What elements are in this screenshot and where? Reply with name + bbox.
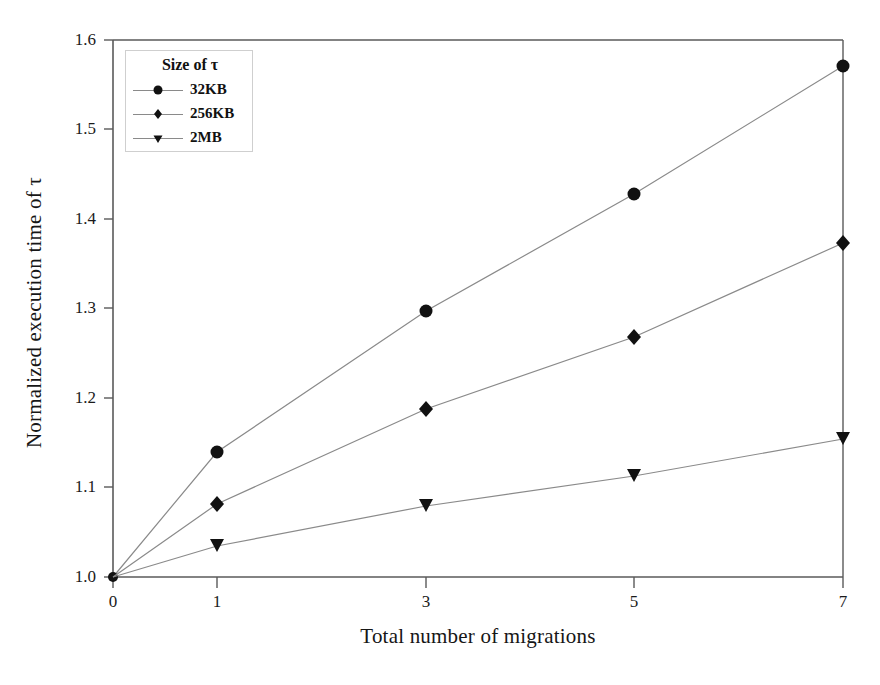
y-tick-label-1.0: 1.0 (52, 567, 96, 587)
y-tick-label-1.1: 1.1 (52, 477, 96, 497)
y-tick-label-1.5: 1.5 (52, 119, 96, 139)
triangle-down-marker-icon (152, 132, 164, 144)
x-axis-ticks (113, 577, 843, 588)
circle-marker-icon (152, 84, 164, 96)
legend: Size of τ 32KB 256KB 2MB (125, 50, 253, 152)
y-tick-label-1.6: 1.6 (52, 30, 96, 50)
x-tick-label-3: 3 (411, 592, 441, 612)
legend-item-2mb[interactable]: 2MB (126, 127, 254, 151)
x-tick-label-1: 1 (202, 592, 232, 612)
legend-title: Size of τ (126, 56, 254, 74)
legend-label-256kb: 256KB (190, 105, 234, 122)
y-tick-label-1.4: 1.4 (52, 209, 96, 229)
legend-item-256kb[interactable]: 256KB (126, 103, 254, 127)
series-256kb (113, 235, 850, 577)
y-axis-ticks (104, 40, 113, 577)
x-tick-label-7: 7 (828, 592, 858, 612)
diamond-marker-icon (152, 108, 164, 120)
legend-item-32kb[interactable]: 32KB (126, 79, 254, 103)
x-tick-label-5: 5 (619, 592, 649, 612)
y-tick-label-1.3: 1.3 (52, 298, 96, 318)
legend-label-2mb: 2MB (190, 129, 222, 146)
x-tick-label-0: 0 (98, 592, 128, 612)
legend-label-32kb: 32KB (190, 81, 227, 98)
chart-figure: Normalized execution time of τ Total num… (0, 0, 880, 685)
y-tick-label-1.2: 1.2 (52, 388, 96, 408)
